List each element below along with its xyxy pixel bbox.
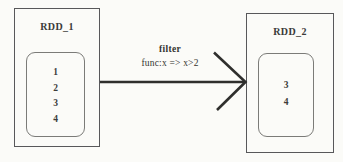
arrow-label: filter func:x => x>2 bbox=[108, 43, 232, 70]
rdd2-box: RDD_2 3 4 bbox=[246, 13, 334, 153]
rdd2-item: 3 bbox=[259, 77, 313, 94]
rdd1-item: 4 bbox=[27, 112, 84, 128]
rdd1-title: RDD_1 bbox=[15, 21, 99, 32]
rdd1-box: RDD_1 1 2 3 4 bbox=[14, 8, 100, 147]
rdd2-item-list: 3 4 bbox=[259, 77, 313, 111]
rdd2-title: RDD_2 bbox=[247, 26, 333, 37]
rdd2-item: 4 bbox=[259, 94, 313, 111]
rdd1-item-list: 1 2 3 4 bbox=[27, 65, 84, 127]
arrow-label-function: func:x => x>2 bbox=[108, 57, 232, 71]
rdd1-item: 3 bbox=[27, 96, 84, 112]
rdd2-partition: 3 4 bbox=[258, 53, 314, 137]
rdd1-partition: 1 2 3 4 bbox=[26, 52, 85, 137]
rdd1-item: 1 bbox=[27, 65, 84, 81]
rdd1-item: 2 bbox=[27, 81, 84, 97]
arrow-label-operation: filter bbox=[108, 43, 232, 57]
rdd-filter-diagram: RDD_1 1 2 3 4 RDD_2 3 4 filter func:x =>… bbox=[0, 0, 343, 162]
